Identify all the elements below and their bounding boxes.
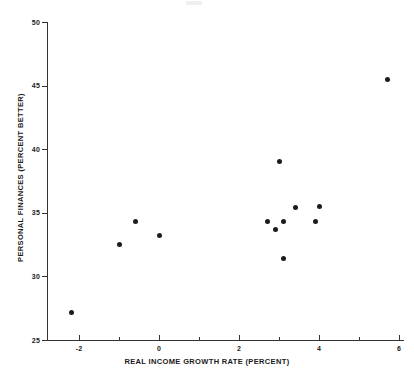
data-point	[133, 219, 138, 224]
y-axis-tick	[42, 213, 48, 214]
y-axis-tick-label: 40	[10, 146, 40, 153]
x-axis-line	[47, 340, 404, 341]
y-axis-tick	[42, 340, 48, 341]
scatter-plot-figure: 253035404550 -20246 REAL INCOME GROWTH R…	[0, 0, 414, 372]
x-axis-minor-tick	[119, 337, 120, 341]
x-axis-tick-label: 2	[224, 345, 254, 352]
data-point	[317, 204, 322, 209]
y-axis-tick-label: 30	[10, 273, 40, 280]
x-axis-tick	[319, 335, 320, 341]
data-point	[277, 159, 282, 164]
x-axis-tick-label: 0	[144, 345, 174, 352]
x-axis-minor-tick	[279, 337, 280, 341]
x-axis-tick-label: -2	[64, 345, 94, 352]
y-axis-line	[47, 22, 48, 341]
y-axis-tick-label: 50	[10, 19, 40, 26]
y-axis-tick	[42, 22, 48, 23]
y-axis-title: PERSONAL FINANCES (PERCENT BETTER)	[16, 63, 25, 293]
y-axis-tick	[42, 276, 48, 277]
data-point	[293, 205, 298, 210]
y-axis-tick	[42, 149, 48, 150]
data-point	[273, 227, 278, 232]
data-point	[385, 77, 390, 82]
x-axis-minor-tick	[359, 337, 360, 341]
y-axis-tick	[42, 86, 48, 87]
y-axis-tick-label: 25	[10, 337, 40, 344]
x-axis-tick	[79, 335, 80, 341]
data-point	[69, 310, 74, 315]
y-axis-tick-label: 35	[10, 209, 40, 216]
data-point	[313, 219, 318, 224]
x-axis-tick	[159, 335, 160, 341]
data-point	[117, 242, 122, 247]
data-point	[281, 256, 286, 261]
x-axis-tick	[239, 335, 240, 341]
x-axis-minor-tick	[199, 337, 200, 341]
x-axis-title: REAL INCOME GROWTH RATE (PERCENT)	[0, 357, 414, 366]
data-point	[157, 233, 162, 238]
data-point	[265, 219, 270, 224]
data-point	[281, 219, 286, 224]
cropped-title-artifact	[186, 1, 202, 5]
x-axis-tick-label: 4	[304, 345, 334, 352]
x-axis-tick-label: 6	[384, 345, 414, 352]
x-axis-tick	[399, 335, 400, 341]
y-axis-tick-label: 45	[10, 82, 40, 89]
